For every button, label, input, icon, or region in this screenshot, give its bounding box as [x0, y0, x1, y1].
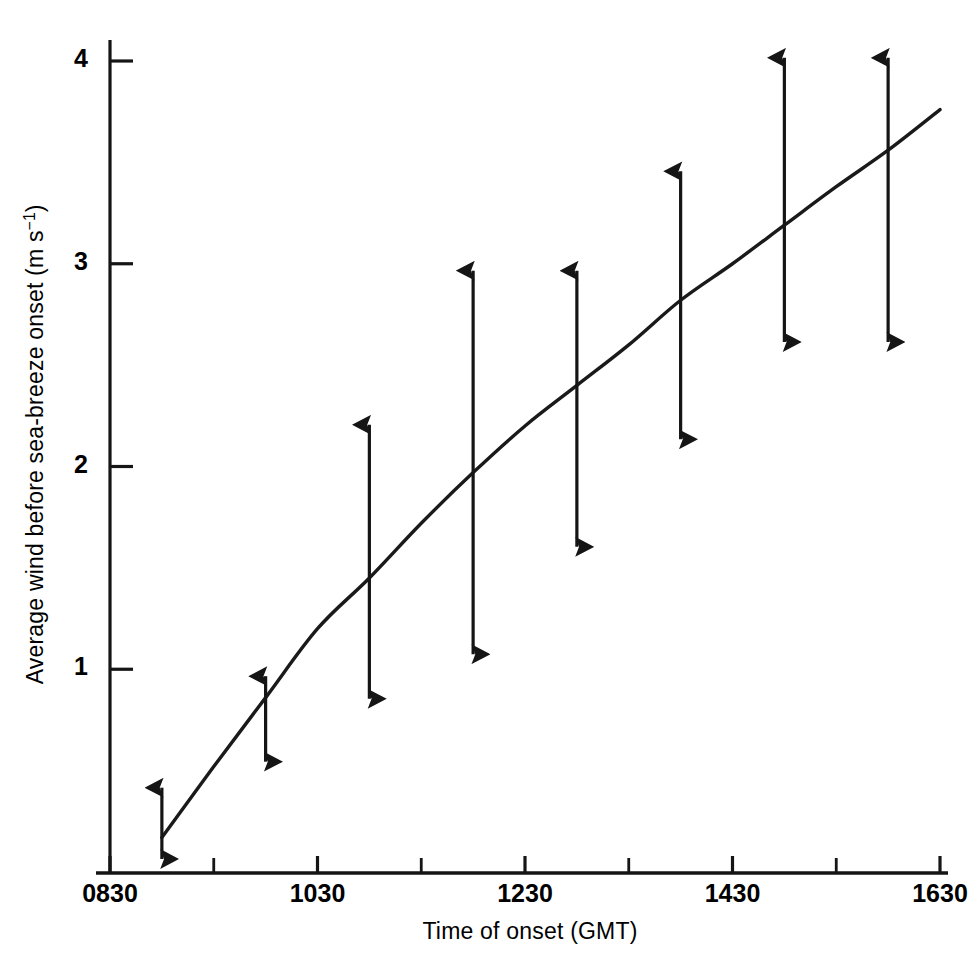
y-axis-title: Average wind before sea-breeze onset (m … [21, 114, 50, 774]
fitted-curve [162, 110, 940, 838]
y-axis-title-text: Average wind before sea-breeze onset (m … [22, 230, 48, 684]
x-tick-label: 1230 [465, 879, 585, 908]
error-bar-group [162, 58, 888, 859]
y-tick-label: 2 [48, 450, 88, 479]
y-tick-label: 3 [48, 247, 88, 276]
x-axis-title: Time of onset (GMT) [110, 918, 950, 945]
y-axis-title-suffix: ) [22, 204, 48, 212]
y-axis-title-exponent: −1 [21, 212, 38, 230]
chart-figure: Average wind before sea-breeze onset (m … [0, 0, 972, 962]
x-tick-label: 1030 [258, 879, 378, 908]
x-tick-label: 1630 [880, 879, 972, 908]
chart-plot-area [0, 0, 972, 962]
x-axis-ticks [110, 856, 940, 873]
x-tick-label: 0830 [50, 879, 170, 908]
axis-lines [96, 40, 948, 873]
x-tick-label: 1430 [673, 879, 793, 908]
y-tick-label: 4 [48, 44, 88, 73]
y-tick-label: 1 [48, 652, 88, 681]
y-axis-ticks [110, 61, 133, 669]
